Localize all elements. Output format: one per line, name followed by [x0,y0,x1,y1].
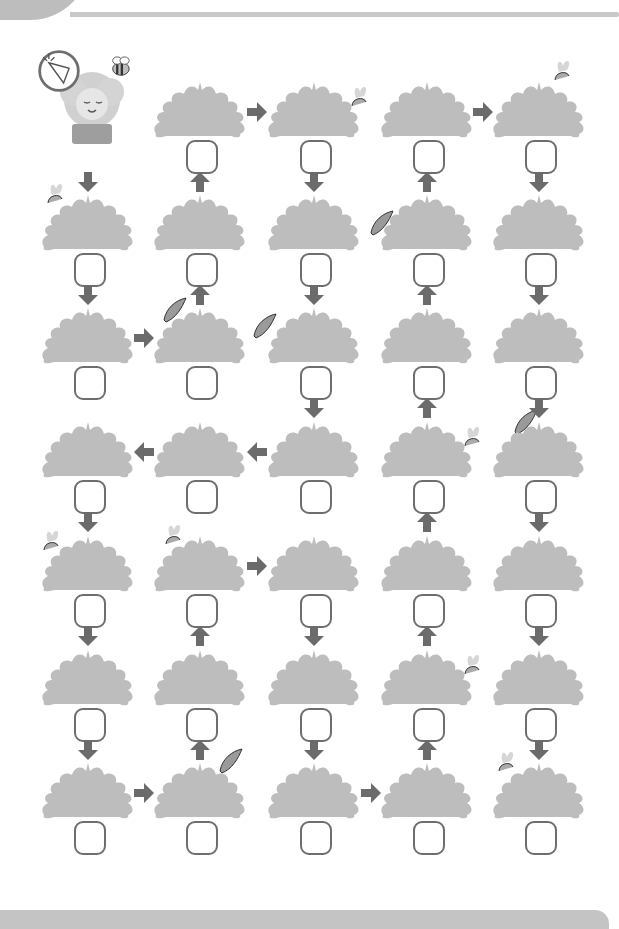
maze-cell-r3-c0 [40,418,140,518]
bush [152,78,248,138]
maze-cell-r0-c4 [491,78,591,178]
answer-box[interactable] [413,366,445,400]
answer-box[interactable] [186,708,218,742]
arrow-down-icon [302,624,326,648]
answer-box[interactable] [186,821,218,855]
answer-box[interactable] [186,366,218,400]
top-tab-decoration [0,0,90,20]
maze-cell-r1-c1 [152,191,252,291]
arrow-down-icon [527,170,551,194]
answer-box[interactable] [413,140,445,174]
arrow-up-icon [415,624,439,648]
maze-cell-r5-c0 [40,646,140,746]
answer-box[interactable] [525,480,557,514]
carrot-badge [36,48,82,98]
maze-cell-r3-c4 [491,418,591,518]
arrow-down-icon [76,510,100,534]
bush [379,759,475,819]
answer-box[interactable] [74,480,106,514]
maze-cell-r4-c3 [379,532,479,632]
answer-box[interactable] [525,708,557,742]
answer-box[interactable] [300,821,332,855]
bush [40,532,136,592]
answer-box[interactable] [525,594,557,628]
answer-box[interactable] [186,253,218,287]
answer-box[interactable] [74,594,106,628]
bush [266,532,362,592]
answer-box[interactable] [413,480,445,514]
arrow-down-icon [302,738,326,762]
bush [152,304,248,364]
maze-cell-r2-c1 [152,304,252,404]
maze-cell-r6-c4 [491,759,591,859]
answer-box[interactable] [74,708,106,742]
answer-box[interactable] [300,366,332,400]
bush [152,191,248,251]
arrow-up-icon [415,283,439,307]
maze-cell-r0-c3 [379,78,479,178]
arrow-up-icon [415,396,439,420]
bush [266,304,362,364]
bush [40,304,136,364]
maze-cell-r2-c3 [379,304,479,404]
arrow-down-icon [76,738,100,762]
bush [491,759,587,819]
top-rule [70,12,619,17]
answer-box[interactable] [413,821,445,855]
answer-box[interactable] [74,366,106,400]
answer-box[interactable] [300,708,332,742]
answer-box[interactable] [186,140,218,174]
bush [266,759,362,819]
arrow-down-icon [76,624,100,648]
maze-cell-r5-c3 [379,646,479,746]
answer-box[interactable] [413,253,445,287]
answer-box[interactable] [525,366,557,400]
arrow-right-icon [132,781,156,805]
maze-cell-r1-c3 [379,191,479,291]
maze-cell-r5-c2 [266,646,366,746]
bush [266,646,362,706]
bush [379,304,475,364]
answer-box[interactable] [186,480,218,514]
arrow-down-icon [302,170,326,194]
arrow-down-icon [527,396,551,420]
maze-cell-r6-c3 [379,759,479,859]
answer-box[interactable] [300,594,332,628]
bush [491,191,587,251]
bottom-rule [0,910,609,929]
answer-box[interactable] [300,480,332,514]
answer-box[interactable] [525,140,557,174]
arrow-left-icon [245,440,269,464]
bush [491,304,587,364]
answer-box[interactable] [525,253,557,287]
bush [152,646,248,706]
answer-box[interactable] [300,140,332,174]
maze-cell-r0-c2 [266,78,366,178]
bush [266,191,362,251]
arrow-up-icon [415,510,439,534]
bush [152,532,248,592]
answer-box[interactable] [74,253,106,287]
answer-box[interactable] [525,821,557,855]
maze-cell-r0-c1 [152,78,252,178]
maze-cell-r3-c2 [266,418,366,518]
answer-box[interactable] [413,594,445,628]
bush [491,78,587,138]
answer-box[interactable] [300,253,332,287]
maze-cell-r0-c0 [40,78,140,178]
arrow-left-icon [132,440,156,464]
arrow-right-icon [471,100,495,124]
bee-icon [106,56,134,82]
answer-box[interactable] [186,594,218,628]
arrow-up-icon [415,738,439,762]
arrow-down-icon [527,283,551,307]
maze-cell-r4-c0 [40,532,140,632]
bush [379,418,475,478]
answer-box[interactable] [74,821,106,855]
maze-cell-r6-c0 [40,759,140,859]
answer-box[interactable] [413,708,445,742]
bush [379,646,475,706]
arrow-down-icon [302,396,326,420]
maze-cell-r2-c4 [491,304,591,404]
bush [266,418,362,478]
